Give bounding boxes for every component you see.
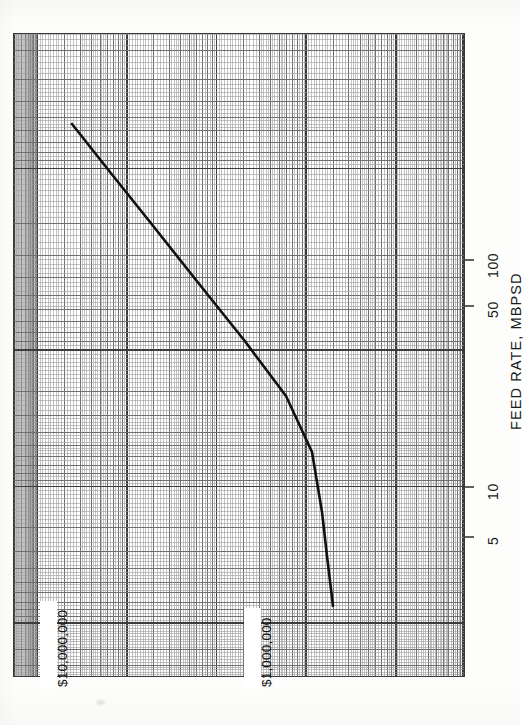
cost-label-10-million: $10,000,000: [55, 610, 70, 687]
tick-label-100: 100: [485, 253, 501, 278]
tick-label-50: 50: [485, 301, 501, 318]
tick-label-10: 10: [485, 483, 501, 500]
log-log-plot-area: [13, 33, 465, 677]
scan-smudge: [96, 700, 105, 705]
cost-label-1-million: $1,000,000: [259, 617, 274, 687]
tick-label-5: 5: [485, 537, 501, 545]
log-log-grid: [14, 34, 464, 676]
axis-title-feed-rate: FEED RATE, MBPSD: [508, 272, 524, 430]
